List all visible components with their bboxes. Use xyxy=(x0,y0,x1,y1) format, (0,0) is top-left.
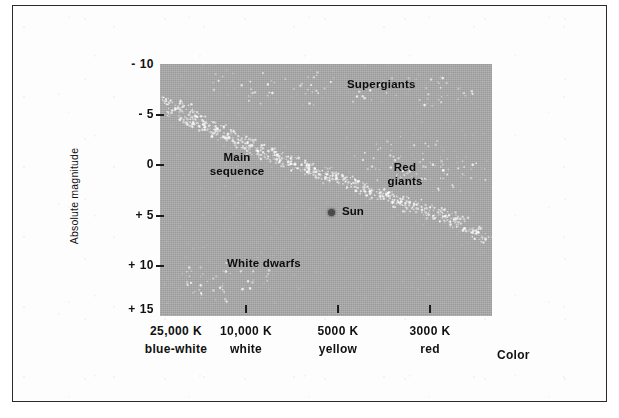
red-giants-line-2: giants xyxy=(375,174,435,188)
y-tick-mark-minus5 xyxy=(156,114,164,116)
x-tick-mark-5000k xyxy=(337,305,339,313)
y-axis-title: Absolute magnitude xyxy=(68,106,80,286)
x-tick-color-3000k: red xyxy=(375,342,485,356)
hr-diagram-chart: Absolute magnitude - 10 - 5 0 + 5 + 10 +… xyxy=(0,0,619,418)
plot-halftone-texture xyxy=(160,64,492,316)
y-tick-label-plus5: + 5 xyxy=(108,208,154,222)
y-tick-mark-plus10 xyxy=(156,265,164,267)
y-tick-label-plus10: + 10 xyxy=(108,258,154,272)
x-tick-temp-3000k: 3000 K xyxy=(375,324,485,338)
x-tick-group-3000k: 3000 K red xyxy=(375,324,485,356)
main-sequence-line-1: Main xyxy=(199,150,275,164)
region-label-white-dwarfs: White dwarfs xyxy=(227,256,301,270)
y-tick-label-minus10: - 10 xyxy=(108,57,154,71)
region-label-supergiants: Supergiants xyxy=(347,77,416,91)
y-tick-label-zero: 0 xyxy=(108,157,154,171)
y-tick-mark-zero xyxy=(156,164,164,166)
main-sequence-line-2: sequence xyxy=(199,164,275,178)
x-axis-title: Color xyxy=(497,348,530,362)
star-field xyxy=(160,64,492,316)
region-label-red-giants: Red giants xyxy=(375,160,435,188)
region-label-sun: Sun xyxy=(342,205,364,217)
plot-area xyxy=(160,64,492,316)
x-tick-mark-3000k xyxy=(429,305,431,313)
sun-marker-icon xyxy=(328,209,335,216)
red-giants-line-1: Red xyxy=(375,160,435,174)
y-tick-mark-plus5 xyxy=(156,215,164,217)
y-tick-label-plus15: + 15 xyxy=(108,302,154,316)
x-tick-mark-10000k xyxy=(245,305,247,313)
region-label-main-sequence: Main sequence xyxy=(199,150,275,178)
y-tick-label-minus5: - 5 xyxy=(108,107,154,121)
